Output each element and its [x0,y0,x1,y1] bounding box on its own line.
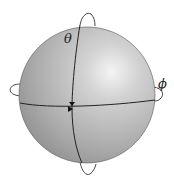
meridian-ring-bottom-loop [80,162,96,175]
theta-label: θ [64,31,72,46]
sphere [19,27,155,163]
phi-label: ϕ [158,76,167,91]
meridian-ring-top-loop [80,13,95,26]
sphere-diagram: θ ϕ [0,0,174,183]
